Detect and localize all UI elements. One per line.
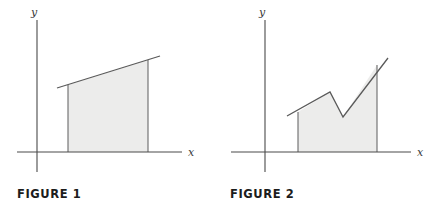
- figure-panel-1: y x FIGURE 1: [0, 0, 213, 207]
- figure-2-diagram: y x: [213, 0, 426, 207]
- figure-1-diagram: y x: [0, 0, 213, 207]
- shaded-region-figure-2: [298, 65, 377, 152]
- y-axis-label-figure-2: y: [258, 6, 266, 19]
- figure-caption-1: FIGURE 1: [17, 187, 81, 201]
- x-axis-label-figure-1: x: [188, 146, 195, 159]
- figure-pair: y x FIGURE 1 y x FIGURE 2: [0, 0, 427, 207]
- y-axis-label-figure-1: y: [30, 6, 38, 19]
- figure-panel-2: y x FIGURE 2: [213, 0, 426, 207]
- figure-caption-2: FIGURE 2: [230, 187, 294, 201]
- shaded-region-figure-1: [68, 60, 148, 152]
- x-axis-label-figure-2: x: [417, 146, 424, 159]
